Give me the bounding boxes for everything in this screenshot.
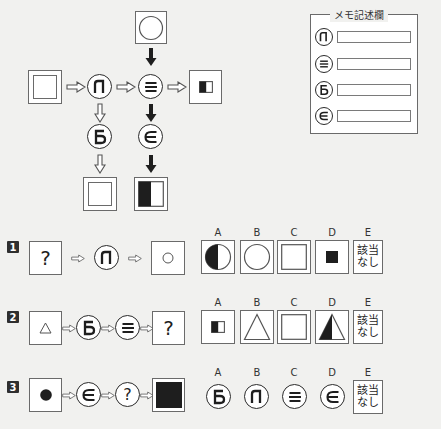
hollow-right-arrow-icon <box>71 254 85 263</box>
element-of-symbol-icon <box>141 127 161 147</box>
square-icon <box>281 314 307 340</box>
q2-option-c[interactable] <box>277 310 311 344</box>
option-label-e: E <box>351 367 385 378</box>
not-applicable-line2: なし <box>357 327 379 339</box>
filled-square-icon <box>326 251 338 263</box>
be-symbol-icon <box>209 387 229 407</box>
hollow-right-arrow-icon <box>101 391 115 400</box>
bottom-left-output-box <box>83 177 117 211</box>
hollow-down-arrow-icon <box>94 154 106 174</box>
q2-option-b[interactable] <box>240 310 274 344</box>
q2-option-d[interactable] <box>315 310 349 344</box>
q3-unknown-operator: ? <box>115 382 140 407</box>
option-label-c: C <box>277 367 311 378</box>
triple-bar-symbol-icon <box>317 57 331 71</box>
option-label-d: D <box>315 367 349 378</box>
q3-option-c[interactable] <box>282 384 307 409</box>
q3-option-b[interactable] <box>244 384 269 409</box>
q3-option-d[interactable] <box>320 384 345 409</box>
option-label-b: B <box>240 297 274 308</box>
question-number-badge: 1 <box>7 241 19 253</box>
option-label-a: A <box>201 297 235 308</box>
operator-el-circle <box>87 74 112 99</box>
left-input-box <box>28 70 62 104</box>
solid-down-arrow-icon <box>145 154 157 174</box>
q1-operator-el <box>94 245 119 270</box>
option-label-c: C <box>277 227 311 238</box>
q3-input-box <box>29 378 62 412</box>
memo-field-el[interactable] <box>337 31 411 43</box>
question-mark: ? <box>163 316 174 340</box>
option-label-a: A <box>201 227 235 238</box>
el-symbol-icon <box>247 387 267 407</box>
solid-down-arrow-icon <box>145 103 157 123</box>
option-label-b: B <box>240 367 274 378</box>
hollow-down-arrow-icon <box>94 103 106 123</box>
el-symbol-icon <box>317 30 331 44</box>
memo-el-symbol <box>315 28 333 46</box>
q3-option-a[interactable] <box>206 384 231 409</box>
circle-icon <box>138 15 164 41</box>
q3-option-e[interactable]: 該当 なし <box>353 380 383 414</box>
half-filled-square-icon <box>199 81 213 93</box>
q3-operator-element-of <box>76 382 101 407</box>
be-symbol-icon <box>90 127 110 147</box>
not-applicable-line2: なし <box>357 257 379 269</box>
option-label-b: B <box>240 227 274 238</box>
q1-option-c[interactable] <box>277 240 311 274</box>
q1-option-d[interactable] <box>315 240 349 274</box>
q1-option-a[interactable] <box>201 240 235 274</box>
triangle-icon <box>39 322 52 334</box>
option-label-e: E <box>351 297 385 308</box>
filled-square-icon <box>156 382 182 408</box>
memo-element-of-symbol <box>315 107 333 125</box>
q1-option-b[interactable] <box>240 240 274 274</box>
triangle-icon <box>243 313 271 341</box>
option-label-a: A <box>201 367 235 378</box>
triple-bar-symbol-icon <box>285 387 305 407</box>
small-circle-icon <box>162 252 174 264</box>
be-symbol-icon <box>317 83 331 97</box>
hollow-right-arrow-icon <box>62 391 76 400</box>
memo-triple-bar-symbol <box>315 55 333 73</box>
hollow-right-arrow-icon <box>128 254 142 263</box>
square-icon <box>281 244 307 270</box>
memo-title: メモ記述欄 <box>330 7 388 22</box>
question-number-badge: 2 <box>7 311 19 323</box>
filled-circle-icon <box>40 389 52 401</box>
operator-triple-bar-circle <box>138 74 163 99</box>
option-label-c: C <box>277 297 311 308</box>
operator-be-circle <box>87 124 112 149</box>
memo-be-symbol <box>315 81 333 99</box>
hollow-right-arrow-icon <box>167 81 187 93</box>
element-of-symbol-icon <box>79 385 99 405</box>
q2-input-box <box>29 311 62 345</box>
solid-down-arrow-icon <box>145 47 157 67</box>
el-symbol-icon <box>90 77 110 97</box>
q1-option-e[interactable]: 該当 なし <box>353 240 383 274</box>
half-filled-circle-icon <box>204 243 232 271</box>
not-applicable-line2: なし <box>357 397 379 409</box>
q2-option-a[interactable] <box>201 310 235 344</box>
q1-output-box <box>151 241 185 275</box>
q3-output-box <box>152 378 185 412</box>
memo-field-be[interactable] <box>337 84 411 96</box>
hollow-right-arrow-icon <box>116 81 136 93</box>
memo-field-element-of[interactable] <box>337 110 411 122</box>
triple-bar-symbol-icon <box>118 318 138 338</box>
bottom-right-output-box <box>134 177 168 211</box>
triple-bar-symbol-icon <box>141 77 161 97</box>
be-symbol-icon <box>79 318 99 338</box>
el-symbol-icon <box>97 248 117 268</box>
circle-icon <box>243 243 271 271</box>
memo-field-triple-bar[interactable] <box>337 58 411 70</box>
top-input-box <box>135 11 167 44</box>
option-label-e: E <box>351 227 385 238</box>
option-label-d: D <box>315 297 349 308</box>
operator-element-of-circle <box>138 124 163 149</box>
question-mark: ? <box>40 246 51 270</box>
question-mark: ? <box>123 387 132 403</box>
hollow-right-arrow-icon <box>62 324 76 333</box>
q2-option-e[interactable]: 該当 なし <box>353 310 383 344</box>
q1-input-box: ? <box>29 241 62 275</box>
